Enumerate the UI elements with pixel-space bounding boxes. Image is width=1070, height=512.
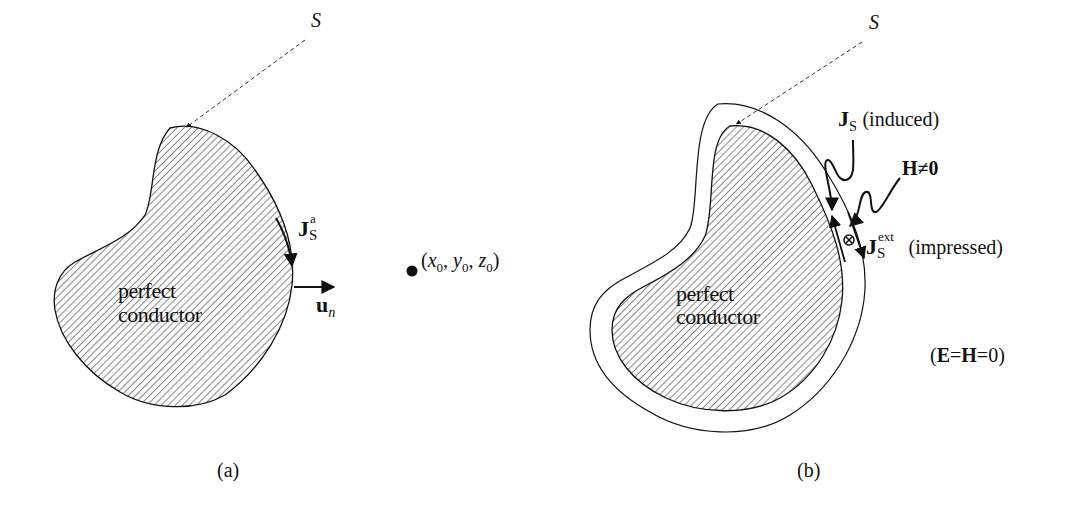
panel-b xyxy=(590,42,900,432)
impressed-current-text: (impressed) xyxy=(909,236,1003,258)
surface-label-a: S xyxy=(311,10,321,30)
cond-E: E xyxy=(937,344,950,366)
surface-label-b: S xyxy=(869,12,879,32)
applied-current-label: JaS xyxy=(298,218,323,240)
coord-y: y xyxy=(453,249,462,271)
induced-current-label: JS (induced) xyxy=(838,108,939,134)
induced-current-symbol: J xyxy=(838,106,849,131)
coord-x: x xyxy=(428,249,437,271)
conductor-body-a xyxy=(54,126,292,406)
applied-current-sup: a xyxy=(310,212,316,225)
caption-a: (a) xyxy=(217,460,239,480)
body-label-a-line2: conductor xyxy=(118,304,201,326)
cond-eq: = xyxy=(950,344,961,366)
field-label: H≠0 xyxy=(902,158,939,178)
body-label-a-line1: perfect xyxy=(118,280,176,302)
cond-zero: =0) xyxy=(977,344,1005,366)
impressed-current-symbol: J xyxy=(866,234,877,259)
paren-open: ( xyxy=(421,249,428,271)
impressed-current-sup: ext xyxy=(878,230,894,243)
body-label-b-line2: conductor xyxy=(676,306,759,328)
induced-current-sub: S xyxy=(849,118,857,134)
normal-vector-sub: n xyxy=(328,304,335,320)
panel-a xyxy=(54,40,417,407)
observation-point xyxy=(407,266,418,277)
body-label-b-line1: perfect xyxy=(676,283,734,305)
impressed-current-sub: S xyxy=(877,246,885,261)
sep-1: , xyxy=(443,249,453,271)
normal-vector-symbol: u xyxy=(316,292,328,317)
paren-close: ) xyxy=(493,249,500,271)
into-page-field-icon xyxy=(844,235,854,245)
outside-condition-label: (E=H=0) xyxy=(930,345,1005,365)
sep-2: , xyxy=(468,249,478,271)
applied-current-symbol: J xyxy=(298,216,309,241)
applied-current-sub: S xyxy=(309,228,317,243)
cond-H: H xyxy=(961,344,977,366)
caption-b: (b) xyxy=(797,460,820,480)
impressed-current-label: JextS (impressed) xyxy=(866,236,1003,258)
normal-vector-label: un xyxy=(316,294,335,320)
observation-point-label: (x0, y0, z0) xyxy=(421,250,499,274)
surface-pointer-a xyxy=(188,40,305,126)
field-leader xyxy=(850,178,900,226)
induced-current-leader xyxy=(825,140,853,210)
cond-paren: ( xyxy=(930,344,937,366)
induced-current-text: (induced) xyxy=(862,108,939,130)
conductor-body-b xyxy=(612,126,843,411)
